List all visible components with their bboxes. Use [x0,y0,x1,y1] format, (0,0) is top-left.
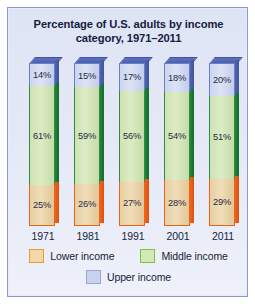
stacked-column-1971: 14%61%25% [29,63,55,226]
bar-side-face-lower-income [235,176,239,223]
segment-label-lower-income-1971: 25% [33,200,51,210]
chart-title: Percentage of U.S. adults by income cate… [16,18,241,45]
chart-title-line-1: Percentage of U.S. adults by income [16,18,241,32]
segment-middle-income-1981[interactable]: 59% [74,87,100,183]
stacked-column-2011: 20%51%29% [209,63,235,226]
bar-side-face-upper-income [145,60,149,88]
bar-side-face-upper-income [55,60,59,83]
segment-upper-income-2011[interactable]: 20% [209,63,235,96]
segment-label-middle-income-1991: 56% [123,131,141,141]
segment-label-middle-income-2011: 51% [213,132,231,142]
segment-lower-income-1971[interactable]: 25% [29,185,55,226]
segment-middle-income-2011[interactable]: 51% [209,96,235,179]
segment-label-upper-income-2001: 18% [168,73,186,83]
segment-label-middle-income-1971: 61% [33,131,51,141]
segment-label-lower-income-1991: 27% [123,198,141,208]
legend-label-lower-income: Lower income [50,250,114,262]
segment-label-middle-income-1981: 59% [78,131,96,141]
bar-group-2011[interactable]: 20%51%29% [208,55,238,235]
legend-swatch-upper-income-icon [86,270,101,284]
segment-middle-income-2001[interactable]: 54% [164,92,190,180]
segment-upper-income-1991[interactable]: 17% [119,63,145,91]
chart-title-line-2: category, 1971–2011 [16,32,241,46]
legend-row-secondary: Upper income [8,270,249,284]
segment-label-middle-income-2001: 54% [168,131,186,141]
bar-side-face-lower-income [145,179,149,223]
bar-side-face-upper-income [100,60,104,84]
x-axis-label-1971: 1971 [26,230,60,242]
legend-item-upper-income[interactable]: Upper income [86,270,171,284]
stacked-column-1981: 15%59%26% [74,63,100,226]
bar-side-face-middle-income [190,89,194,177]
x-axis-label-1981: 1981 [71,230,105,242]
segment-lower-income-1991[interactable]: 27% [119,182,145,226]
segment-middle-income-1971[interactable]: 61% [29,86,55,185]
x-axis-label-1991: 1991 [116,230,150,242]
chart-panel: Percentage of U.S. adults by income cate… [7,7,248,297]
segment-label-upper-income-1981: 15% [78,71,96,81]
bar-group-1991[interactable]: 17%56%27% [118,55,148,235]
segment-label-lower-income-1981: 26% [78,199,96,209]
segment-label-upper-income-1991: 17% [123,72,141,82]
bar-side-face-lower-income [100,181,104,223]
segment-middle-income-1991[interactable]: 56% [119,91,145,182]
plot-area: 14%61%25%197115%59%26%198117%56%27%19911… [8,55,249,235]
segment-label-lower-income-2011: 29% [213,197,231,207]
stacked-column-2001: 18%54%28% [164,63,190,226]
legend-item-middle-income[interactable]: Middle income [140,249,227,263]
bar-side-face-upper-income [235,60,239,93]
bar-side-face-middle-income [235,93,239,176]
segment-lower-income-2011[interactable]: 29% [209,179,235,226]
segment-label-upper-income-2011: 20% [213,75,231,85]
segment-upper-income-1981[interactable]: 15% [74,63,100,87]
legend-swatch-middle-income-icon [140,249,155,263]
legend-label-middle-income: Middle income [161,250,227,262]
legend-row-primary: Lower income Middle income [8,249,249,263]
bar-group-1981[interactable]: 15%59%26% [73,55,103,235]
segment-label-upper-income-1971: 14% [33,70,51,80]
bar-side-face-middle-income [145,88,149,179]
chart-legend: Lower income Middle income Upper income [8,249,249,291]
bar-group-1971[interactable]: 14%61%25% [28,55,58,235]
legend-swatch-lower-income-icon [29,249,44,263]
bar-side-face-middle-income [55,83,59,182]
segment-label-lower-income-2001: 28% [168,198,186,208]
segment-lower-income-2001[interactable]: 28% [164,180,190,226]
stacked-column-1991: 17%56%27% [119,63,145,226]
bar-side-face-lower-income [55,182,59,223]
legend-item-lower-income[interactable]: Lower income [29,249,114,263]
x-axis-label-2001: 2001 [161,230,195,242]
segment-upper-income-1971[interactable]: 14% [29,63,55,86]
bar-group-2001[interactable]: 18%54%28% [163,55,193,235]
segment-upper-income-2001[interactable]: 18% [164,63,190,92]
legend-label-upper-income: Upper income [107,271,171,283]
bar-side-face-upper-income [190,60,194,89]
bar-side-face-lower-income [190,177,194,223]
segment-lower-income-1981[interactable]: 26% [74,184,100,226]
bar-side-face-middle-income [100,84,104,180]
x-axis-label-2011: 2011 [206,230,240,242]
